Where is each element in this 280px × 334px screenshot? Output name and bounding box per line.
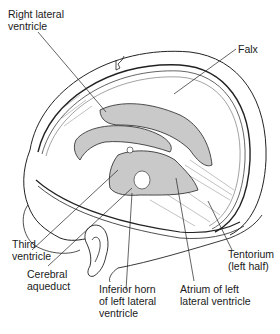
leader-tentorium: [208, 201, 232, 250]
skull-cut-mark: [116, 56, 124, 70]
label-tentorium: Tentorium (left half): [228, 248, 274, 272]
third-ventricle-foramen: [127, 147, 133, 153]
label-third-ventricle: Third ventricle: [12, 238, 51, 262]
leader-inferior-horn: [126, 193, 132, 290]
ear: [85, 225, 108, 276]
label-right-lateral-ventricle: Right lateral ventricle: [8, 8, 64, 32]
label-inferior-horn: Inferior horn of left lateral ventricle: [99, 283, 156, 319]
label-cerebral-aqueduct: Cerebral aqueduct: [27, 268, 70, 292]
leader-right-lateral-ventricle: [38, 32, 106, 112]
label-atrium: Atrium of left lateral ventricle: [180, 283, 251, 307]
skull-inner-rim: [38, 65, 250, 232]
atrium-and-inferior-horn: [109, 151, 198, 195]
label-falx: Falx: [238, 43, 258, 55]
ventricle-anatomy-diagram: Right lateral ventricle Falx Third ventr…: [0, 0, 280, 334]
